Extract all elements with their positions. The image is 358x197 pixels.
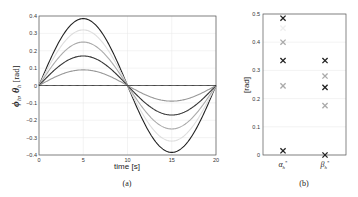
x-marker bbox=[322, 58, 327, 63]
x-marker bbox=[280, 16, 285, 21]
x-marker bbox=[280, 83, 285, 88]
panel-label-b: (b) bbox=[299, 179, 309, 188]
y-tick-label: −0.2 bbox=[26, 117, 37, 123]
y-tick-label: 0.2 bbox=[29, 48, 37, 54]
y-tick-label: 0.5 bbox=[252, 11, 260, 17]
y-tick-label: 0.3 bbox=[29, 30, 37, 36]
x-marker bbox=[322, 85, 327, 90]
y-axis-label-a: ϕh, θh [rad] bbox=[10, 65, 22, 107]
x-marker bbox=[280, 148, 285, 153]
panel-a: 05101520−0.4−0.3−0.2−0.100.10.20.30.4 ti… bbox=[10, 13, 219, 188]
category-label-alpha: αh* bbox=[278, 160, 288, 170]
x-marker bbox=[280, 26, 285, 31]
x-marker bbox=[280, 58, 285, 63]
y-axis-label-b: [rad] bbox=[242, 77, 251, 93]
x-tick-label: 20 bbox=[213, 157, 219, 163]
category-label-beta: βh* bbox=[320, 160, 330, 170]
y-tick-label: 0.1 bbox=[252, 124, 260, 130]
y-tick-label: 0.3 bbox=[252, 67, 260, 73]
x-tick-label: 15 bbox=[169, 157, 175, 163]
x-axis-label-a: time [s] bbox=[114, 162, 140, 171]
y-tick-label: 0 bbox=[34, 83, 37, 89]
y-tick-label: 0 bbox=[257, 152, 260, 158]
x-marker bbox=[322, 73, 327, 78]
panel-b: 00.10.20.30.40.5 [rad] αh* βh* (b) bbox=[242, 11, 346, 188]
y-tick-label: −0.4 bbox=[26, 152, 37, 158]
figure: 05101520−0.4−0.3−0.2−0.100.10.20.30.4 ti… bbox=[0, 0, 358, 197]
y-tick-label: 0.1 bbox=[29, 65, 37, 71]
panel-label-a: (a) bbox=[123, 179, 132, 188]
svg-text:ϕh, θh [rad]: ϕh, θh [rad] bbox=[10, 65, 22, 107]
x-tick-label: 5 bbox=[82, 157, 85, 163]
y-tick-label: −0.3 bbox=[26, 135, 37, 141]
y-tick-label: 0.2 bbox=[252, 96, 260, 102]
x-marker bbox=[322, 103, 327, 108]
y-tick-label: 0.4 bbox=[252, 39, 260, 45]
plot-frame-b bbox=[263, 14, 346, 155]
x-tick-label: 0 bbox=[37, 157, 40, 163]
y-tick-label: 0.4 bbox=[29, 13, 37, 19]
y-tick-label: −0.1 bbox=[26, 100, 37, 106]
